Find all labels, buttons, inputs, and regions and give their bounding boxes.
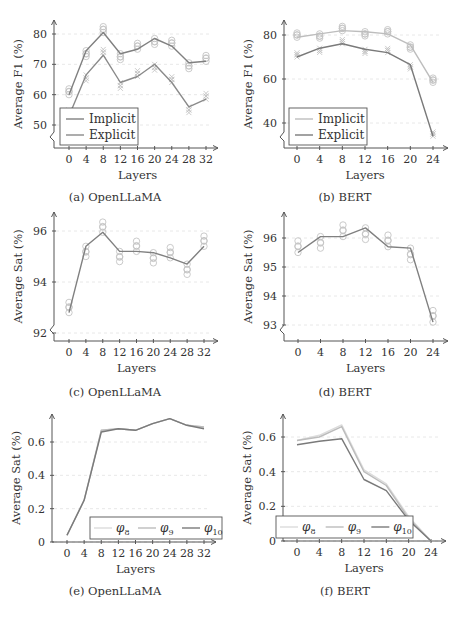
x-tick-label: 8 bbox=[338, 546, 345, 559]
x-tick-label: 20 bbox=[403, 153, 417, 166]
chart-caption: (f) BERT bbox=[320, 584, 370, 598]
x-tick-label: 12 bbox=[113, 153, 127, 166]
x-tick-label: 4 bbox=[317, 346, 324, 359]
x-tick-label: 16 bbox=[131, 153, 145, 166]
x-tick-label: 24 bbox=[426, 153, 440, 166]
x-tick-label: 0 bbox=[294, 546, 301, 559]
x-tick-label: 32 bbox=[197, 346, 211, 359]
x-tick-label: 4 bbox=[316, 153, 323, 166]
y-tick-label: 0.4 bbox=[259, 466, 277, 479]
x-tick-label: 12 bbox=[113, 346, 127, 359]
y-axis-label: Average F1 (%) bbox=[241, 39, 255, 130]
x-tick-label: 24 bbox=[163, 547, 177, 560]
y-axis-label: Average Sat (%) bbox=[9, 431, 23, 526]
x-tick-label: 32 bbox=[199, 153, 213, 166]
chart-caption: (c) OpenLLaMA bbox=[69, 385, 162, 399]
x-tick-label: 16 bbox=[129, 547, 143, 560]
y-tick-label: 96 bbox=[263, 232, 277, 245]
y-tick-label: 80 bbox=[263, 29, 277, 42]
chart-panel-b: 40608004812162024LayersAverage F1 (%)(b)… bbox=[241, 20, 448, 204]
legend-label: Explicit bbox=[318, 128, 364, 142]
x-tick-label: 24 bbox=[165, 153, 179, 166]
x-tick-label: 8 bbox=[100, 153, 107, 166]
data-marker-x bbox=[186, 108, 191, 113]
x-tick-label: 32 bbox=[197, 547, 211, 560]
chart-caption: (d) BERT bbox=[319, 385, 372, 399]
data-marker-x bbox=[101, 47, 106, 52]
legend: φ8φ9φ10 bbox=[90, 517, 223, 539]
chart-caption: (e) OpenLLaMA bbox=[69, 584, 162, 598]
y-tick-label: 0.2 bbox=[259, 500, 277, 513]
chart-panel-e: 00.20.40.6048121620242832LayersAverage S… bbox=[9, 414, 223, 598]
x-tick-label: 12 bbox=[359, 346, 373, 359]
data-marker-x bbox=[118, 83, 123, 88]
x-tick-label: 0 bbox=[64, 547, 71, 560]
x-tick-label: 8 bbox=[98, 547, 105, 560]
y-axis-break bbox=[50, 20, 54, 148]
x-tick-label: 28 bbox=[180, 346, 194, 359]
chart-panel-f: 00.20.40.604812162024LayersAverage Sat (… bbox=[240, 414, 446, 598]
x-tick-label: 8 bbox=[99, 346, 106, 359]
x-tick-label: 28 bbox=[182, 153, 196, 166]
chart-panel-a: 50607080048121620242832LayersAverage F1 … bbox=[11, 20, 218, 204]
data-marker-x bbox=[186, 110, 191, 115]
chart-panel-c: 929496048121620242832LayersAverage Sat (… bbox=[11, 212, 218, 399]
y-tick-label: 50 bbox=[33, 119, 47, 132]
x-axis-label: Layers bbox=[118, 168, 157, 182]
y-tick-label: 95 bbox=[263, 261, 277, 274]
x-tick-label: 4 bbox=[83, 153, 90, 166]
x-axis-label: Layers bbox=[344, 561, 383, 575]
y-tick-label: 96 bbox=[33, 225, 47, 238]
data-marker-x bbox=[118, 86, 123, 91]
x-tick-label: 16 bbox=[130, 346, 144, 359]
x-tick-label: 24 bbox=[426, 346, 440, 359]
series-line-average bbox=[298, 228, 433, 322]
y-tick-label: 94 bbox=[33, 276, 47, 289]
y-tick-label: 60 bbox=[33, 89, 47, 102]
y-tick-label: 60 bbox=[263, 73, 277, 86]
x-tick-label: 20 bbox=[402, 546, 416, 559]
figure-grid: 50607080048121620242832LayersAverage F1 … bbox=[0, 0, 461, 618]
x-tick-label: 20 bbox=[404, 346, 418, 359]
y-axis-label: Average F1 (%) bbox=[11, 39, 25, 130]
y-tick-label: 94 bbox=[263, 290, 277, 303]
legend-label: Implicit bbox=[89, 112, 136, 126]
series-line-explicit bbox=[69, 55, 206, 116]
y-tick-label: 0.4 bbox=[28, 469, 46, 482]
y-tick-label: 93 bbox=[263, 319, 277, 332]
x-tick-label: 16 bbox=[381, 153, 395, 166]
data-marker-x bbox=[204, 91, 209, 96]
legend: φ8φ9φ10 bbox=[276, 516, 413, 538]
x-tick-label: 8 bbox=[340, 346, 347, 359]
y-tick-label: 0.6 bbox=[259, 431, 277, 444]
x-tick-label: 12 bbox=[357, 546, 371, 559]
y-tick-label: 80 bbox=[33, 28, 47, 41]
legend-label: Explicit bbox=[89, 128, 135, 142]
y-axis-label: Average Sat (%) bbox=[240, 430, 254, 525]
y-axis-break bbox=[280, 20, 284, 148]
x-tick-label: 0 bbox=[66, 153, 73, 166]
y-tick-label: 70 bbox=[33, 58, 47, 71]
data-marker-x bbox=[169, 74, 174, 79]
x-axis-label: Layers bbox=[116, 562, 155, 576]
x-axis-label: Layers bbox=[117, 361, 156, 375]
x-tick-label: 12 bbox=[111, 547, 125, 560]
x-tick-label: 20 bbox=[148, 153, 162, 166]
chart-caption: (a) OpenLLaMA bbox=[69, 190, 162, 204]
x-tick-label: 4 bbox=[82, 346, 89, 359]
y-tick-label: 0.2 bbox=[28, 503, 46, 516]
x-tick-label: 24 bbox=[163, 346, 177, 359]
x-tick-label: 24 bbox=[424, 546, 438, 559]
x-tick-label: 28 bbox=[180, 547, 194, 560]
chart-caption: (b) BERT bbox=[319, 190, 372, 204]
x-tick-label: 0 bbox=[294, 153, 301, 166]
x-tick-label: 12 bbox=[358, 153, 372, 166]
legend-label: Implicit bbox=[318, 112, 365, 126]
chart-panel-d: 9394959604812162024LayersAverage Sat (%)… bbox=[241, 212, 448, 399]
y-tick-label: 40 bbox=[263, 117, 277, 130]
x-tick-label: 4 bbox=[81, 547, 88, 560]
x-axis-label: Layers bbox=[345, 168, 384, 182]
x-tick-label: 20 bbox=[146, 547, 160, 560]
x-axis-label: Layers bbox=[346, 361, 385, 375]
x-tick-label: 8 bbox=[339, 153, 346, 166]
